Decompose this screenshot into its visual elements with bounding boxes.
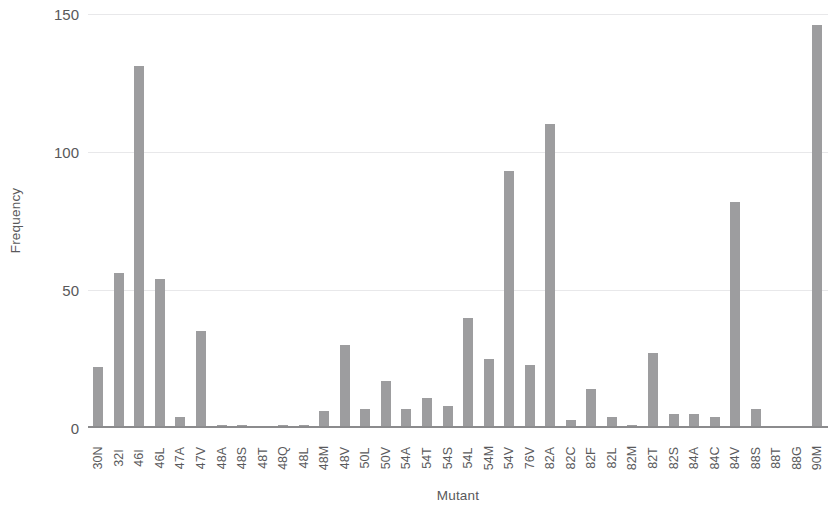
bar-chart: Frequency 050100150 30N32I46I46L47A47V48…: [0, 0, 835, 518]
bar-slot: [478, 14, 499, 428]
x-axis-tick-label: 54V: [502, 438, 516, 478]
bar-slot: [807, 14, 828, 428]
bar-slot: [88, 14, 109, 428]
bar-slot: [458, 14, 479, 428]
x-label-slot: 48V: [335, 431, 356, 487]
x-axis-tick-label: 82L: [605, 438, 619, 478]
x-label-slot: 88G: [787, 431, 808, 487]
bar: [401, 409, 411, 428]
bar-slot: [314, 14, 335, 428]
x-axis-tick-label: 48V: [338, 438, 352, 478]
bar: [381, 381, 391, 428]
bar: [340, 345, 350, 428]
bar-slot: [766, 14, 787, 428]
bar-slot: [622, 14, 643, 428]
x-label-slot: 54A: [396, 431, 417, 487]
x-label-slot: 54L: [458, 431, 479, 487]
bar-slot: [273, 14, 294, 428]
x-axis-title-label: Mutant: [437, 488, 479, 503]
x-label-slot: 84V: [725, 431, 746, 487]
bar-slot: [519, 14, 540, 428]
bar: [134, 66, 144, 428]
x-axis-tick-label: 82S: [667, 438, 681, 478]
x-label-slot: 82F: [581, 431, 602, 487]
bar-slot: [787, 14, 808, 428]
x-axis-tick-label: 82C: [564, 438, 578, 478]
y-axis-tick-labels: 050100150: [32, 0, 88, 440]
bar: [586, 389, 596, 428]
x-axis-tick-label: 54A: [399, 438, 413, 478]
x-axis-tick-label: 54S: [441, 438, 455, 478]
x-label-slot: 54M: [478, 431, 499, 487]
x-label-slot: 54V: [499, 431, 520, 487]
x-axis-tick-label: 88G: [790, 438, 804, 478]
x-label-slot: 82S: [663, 431, 684, 487]
x-label-slot: 47V: [191, 431, 212, 487]
x-label-slot: 82C: [561, 431, 582, 487]
x-axis-tick-labels: 30N32I46I46L47A47V48A48S48T48Q48L48M48V5…: [88, 431, 828, 487]
x-label-slot: 90M: [807, 431, 828, 487]
x-axis-tick-label: 50V: [379, 438, 393, 478]
bar: [751, 409, 761, 428]
x-axis-tick-label: 82F: [584, 438, 598, 478]
bar-slot: [396, 14, 417, 428]
bar-slot: [252, 14, 273, 428]
x-label-slot: 54T: [417, 431, 438, 487]
x-axis-title: Mutant: [88, 488, 828, 503]
x-axis-tick-label: 54M: [482, 438, 496, 478]
bar-slot: [417, 14, 438, 428]
y-axis-tick-label: 50: [62, 282, 79, 299]
x-axis-tick-label: 48A: [215, 438, 229, 478]
bar-slot: [746, 14, 767, 428]
x-label-slot: 50V: [376, 431, 397, 487]
bar-slot: [232, 14, 253, 428]
x-axis-tick-label: 82M: [625, 438, 639, 478]
bar-slot: [540, 14, 561, 428]
bar-slot: [499, 14, 520, 428]
x-axis-tick-label: 54L: [461, 438, 475, 478]
bar-slot: [191, 14, 212, 428]
x-label-slot: 88S: [746, 431, 767, 487]
bar-slot: [704, 14, 725, 428]
bar-slot: [643, 14, 664, 428]
x-axis-tick-label: 46L: [153, 438, 167, 478]
bar-slot: [150, 14, 171, 428]
bar: [545, 124, 555, 428]
x-axis-tick-label: 84C: [708, 438, 722, 478]
x-label-slot: 82M: [622, 431, 643, 487]
bar-slot: [129, 14, 150, 428]
x-axis-tick-label: 82A: [543, 438, 557, 478]
bar-slot: [663, 14, 684, 428]
x-axis-tick-label: 54T: [420, 438, 434, 478]
x-label-slot: 32I: [109, 431, 130, 487]
bar: [730, 202, 740, 428]
x-label-slot: 82L: [602, 431, 623, 487]
bar-slot: [725, 14, 746, 428]
x-label-slot: 48T: [252, 431, 273, 487]
x-axis-tick-label: 46I: [132, 438, 146, 478]
bar: [443, 406, 453, 428]
bar: [463, 318, 473, 428]
plot-area: [88, 14, 828, 428]
x-label-slot: 84C: [704, 431, 725, 487]
bar-series: [88, 14, 828, 428]
bar: [484, 359, 494, 428]
bar-slot: [376, 14, 397, 428]
bar: [360, 409, 370, 428]
x-axis-tick-label: 82T: [646, 438, 660, 478]
x-axis-tick-label: 50L: [358, 438, 372, 478]
bar-slot: [293, 14, 314, 428]
x-label-slot: 48S: [232, 431, 253, 487]
bar-slot: [335, 14, 356, 428]
x-axis-tick-label: 48S: [235, 438, 249, 478]
x-axis-tick-label: 84A: [687, 438, 701, 478]
x-axis-tick-label: 90M: [810, 438, 824, 478]
x-axis-tick-label: 47V: [194, 438, 208, 478]
x-axis-tick-label: 84V: [728, 438, 742, 478]
x-label-slot: 76V: [519, 431, 540, 487]
bar-slot: [684, 14, 705, 428]
bar-slot: [355, 14, 376, 428]
bar: [196, 331, 206, 428]
x-axis-tick-label: 32I: [112, 438, 126, 478]
x-label-slot: 47A: [170, 431, 191, 487]
